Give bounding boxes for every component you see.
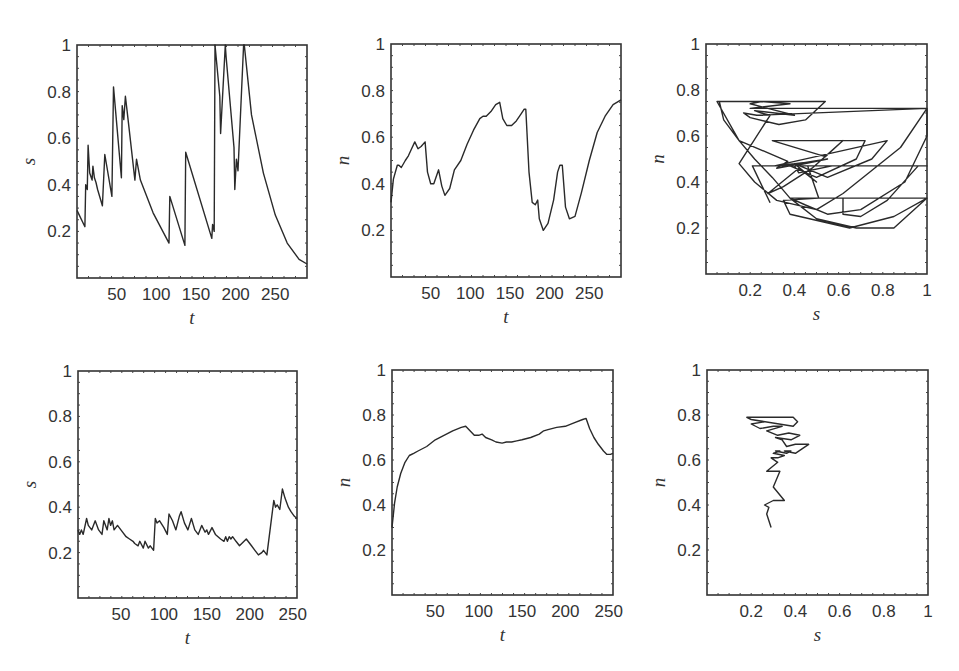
axes-frame: [391, 44, 621, 277]
panel-bottom-right: 0.20.40.60.810.20.40.60.81sn: [648, 361, 933, 645]
data-line: [717, 102, 927, 229]
y-tick-label: 0.2: [47, 222, 71, 241]
axes-frame: [77, 45, 307, 278]
y-axis-label: n: [648, 478, 669, 488]
axes-frame: [392, 370, 613, 595]
x-axis-label: t: [189, 307, 195, 328]
y-tick-label: 0.4: [362, 496, 386, 515]
x-tick-label: 0.8: [871, 281, 895, 300]
x-tick-label: 200: [236, 605, 264, 624]
x-tick-label: 0.6: [828, 602, 852, 621]
y-tick-label: 0.8: [676, 81, 700, 100]
x-tick-label: 150: [508, 602, 536, 621]
y-tick-label: 0.8: [677, 406, 701, 425]
x-tick-label: 0.2: [739, 602, 763, 621]
y-tick-label: 1: [691, 35, 700, 54]
y-tick-label: 0.2: [361, 221, 385, 240]
data-line: [392, 418, 613, 527]
x-tick-label: 150: [193, 605, 221, 624]
panel-top-middle: 501001502002500.20.40.60.81tn: [332, 35, 621, 327]
y-tick-label: 0.2: [676, 219, 700, 238]
y-tick-label: 0.6: [362, 451, 386, 470]
y-tick-label: 0.2: [362, 541, 386, 560]
y-tick-label: 0.4: [361, 175, 385, 194]
x-tick-label: 50: [111, 605, 130, 624]
x-tick-label: 1: [922, 281, 931, 300]
y-tick-label: 0.2: [677, 541, 701, 560]
y-tick-label: 0.4: [676, 173, 700, 192]
x-tick-label: 250: [261, 285, 289, 304]
y-tick-label: 0.6: [677, 451, 701, 470]
x-tick-label: 0.8: [872, 602, 896, 621]
data-line: [77, 45, 307, 264]
panel-top-left: 501001502002500.20.40.60.81ts: [18, 36, 307, 328]
x-tick-label: 200: [551, 602, 579, 621]
x-axis-label: s: [814, 624, 821, 645]
y-tick-label: 0.8: [48, 407, 72, 426]
x-tick-label: 150: [182, 285, 210, 304]
x-tick-label: 250: [279, 605, 307, 624]
figure-canvas: 501001502002500.20.40.60.81ts 5010015020…: [0, 0, 959, 671]
axes-frame: [706, 44, 927, 274]
y-tick-label: 1: [692, 361, 701, 380]
x-tick-label: 250: [594, 602, 622, 621]
x-tick-label: 1: [923, 602, 932, 621]
y-tick-label: 1: [62, 36, 71, 55]
x-tick-label: 200: [535, 284, 563, 303]
x-tick-label: 100: [142, 285, 170, 304]
y-tick-label: 0.4: [48, 498, 72, 517]
x-tick-label: 0.2: [738, 281, 762, 300]
y-axis-label: s: [18, 158, 39, 165]
panel-bottom-middle: 501001502002500.20.40.60.81tn: [333, 361, 623, 645]
x-tick-label: 250: [575, 284, 603, 303]
x-axis-label: t: [185, 627, 191, 648]
x-tick-label: 0.6: [827, 281, 851, 300]
x-tick-label: 0.4: [783, 281, 807, 300]
x-axis-label: t: [503, 306, 509, 327]
x-tick-label: 50: [107, 285, 126, 304]
data-line: [391, 100, 621, 231]
y-axis-label: n: [332, 156, 353, 166]
y-tick-label: 0.6: [48, 453, 72, 472]
x-tick-label: 100: [456, 284, 484, 303]
data-line: [747, 417, 809, 527]
axes-frame: [707, 370, 928, 595]
x-tick-label: 150: [496, 284, 524, 303]
y-tick-label: 1: [63, 362, 72, 381]
x-tick-label: 50: [421, 284, 440, 303]
y-tick-label: 0.4: [677, 496, 701, 515]
panel-bottom-left: 501001502002500.20.40.60.81ts: [19, 362, 307, 648]
y-tick-label: 0.8: [47, 83, 71, 102]
y-tick-label: 0.8: [361, 82, 385, 101]
data-line: [78, 489, 297, 555]
y-tick-label: 1: [377, 361, 386, 380]
x-tick-label: 100: [150, 605, 178, 624]
axes-frame: [78, 371, 297, 598]
y-tick-label: 0.4: [47, 176, 71, 195]
x-tick-label: 200: [221, 285, 249, 304]
x-axis-label: t: [500, 624, 506, 645]
y-axis-label: n: [333, 478, 354, 488]
y-tick-label: 0.6: [676, 127, 700, 146]
y-tick-label: 0.2: [48, 544, 72, 563]
y-tick-label: 1: [376, 35, 385, 54]
y-axis-label: n: [647, 154, 668, 164]
y-tick-label: 0.8: [362, 406, 386, 425]
x-tick-label: 50: [426, 602, 445, 621]
y-axis-label: s: [19, 481, 40, 488]
x-tick-label: 0.4: [784, 602, 808, 621]
y-tick-label: 0.6: [361, 128, 385, 147]
y-tick-label: 0.6: [47, 129, 71, 148]
x-tick-label: 100: [464, 602, 492, 621]
x-axis-label: s: [813, 303, 820, 324]
panel-top-right: 0.20.40.60.810.20.40.60.81sn: [647, 35, 932, 324]
